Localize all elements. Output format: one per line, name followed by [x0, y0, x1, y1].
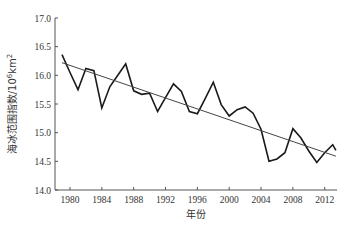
x-tick-label: 1988: [124, 195, 143, 205]
y-tick-label: 16.0: [34, 71, 51, 81]
x-tick-label: 2008: [283, 195, 302, 205]
y-axis: 14.014.515.015.516.016.517.0: [34, 14, 58, 196]
x-axis-title: 年份: [186, 208, 206, 220]
y-axis-title-exp2: 2: [6, 54, 14, 58]
y-axis-title-base: 海冰范围指数/10: [6, 78, 18, 154]
y-tick-label: 15.5: [34, 100, 51, 110]
trend-line: [62, 63, 336, 157]
sea-ice-extent-chart: 14.014.515.015.516.016.517.0 19801984198…: [0, 0, 348, 230]
x-tick-label: 2012: [315, 195, 334, 205]
x-tick-label: 2000: [220, 195, 239, 205]
x-tick-label: 1992: [156, 195, 175, 205]
y-tick-label: 17.0: [34, 14, 51, 24]
x-tick-label: 1984: [92, 195, 111, 205]
y-tick-label: 16.5: [34, 42, 51, 52]
sea-ice-index-line: [62, 55, 336, 163]
x-tick-label: 1996: [188, 195, 207, 205]
series-layer: [62, 55, 336, 163]
y-axis-title: 海冰范围指数/106km2: [6, 54, 18, 155]
y-axis-title-mid: km: [7, 58, 18, 74]
y-tick-label: 15.0: [34, 128, 51, 138]
x-axis: 198019841988199219962000200420082012: [55, 187, 337, 205]
y-tick-label: 14.5: [34, 157, 51, 167]
y-tick-label: 14.0: [34, 186, 51, 196]
x-tick-label: 1980: [61, 195, 80, 205]
x-tick-label: 2004: [252, 195, 271, 205]
